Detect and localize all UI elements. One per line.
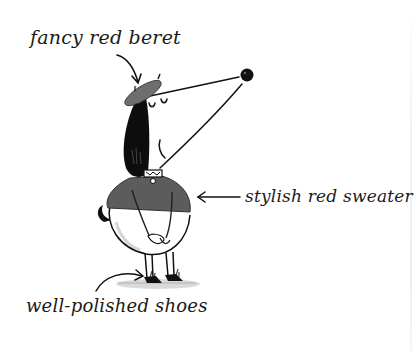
arrow-to-beret	[117, 55, 141, 83]
label-fancy-red-beret: fancy red beret	[30, 26, 181, 48]
closed-eyes	[149, 99, 167, 107]
sweater	[107, 176, 190, 212]
arrow-to-sweater	[198, 192, 240, 202]
legs	[145, 252, 174, 278]
snout	[150, 77, 242, 168]
belly	[109, 205, 190, 255]
nose	[241, 69, 254, 82]
hair	[124, 96, 150, 177]
label-well-polished-shoes: well-polished shoes	[26, 295, 208, 316]
label-stylish-red-sweater: stylish red sweater	[245, 186, 413, 206]
